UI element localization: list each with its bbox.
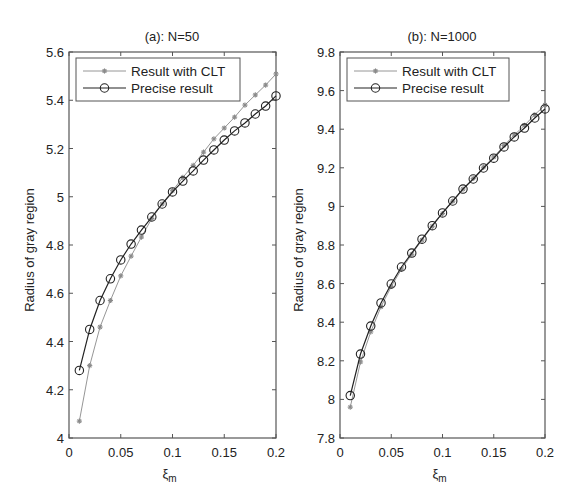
legend-label: Precise result	[402, 81, 484, 96]
y-tick-label: 9.6	[317, 84, 335, 99]
panel-b-chart: (b): N=1000 00.050.10.150.27.888.28.48.6…	[291, 29, 554, 484]
panel-a-title: (a): N=50	[145, 29, 200, 44]
star-marker	[139, 234, 144, 239]
star-marker	[222, 125, 227, 130]
series-clt	[77, 71, 279, 423]
star-marker	[108, 298, 113, 303]
legend-star-icon	[373, 68, 378, 73]
legend-label: Result with CLT	[131, 64, 225, 79]
legend-label: Precise result	[131, 81, 213, 96]
x-tick-label: 0.05	[108, 445, 133, 460]
star-marker	[129, 253, 134, 258]
series-precise	[346, 105, 549, 400]
y-tick-label: 5.6	[46, 45, 64, 60]
x-axis-label: ξm	[432, 466, 446, 484]
panel-a-chart: (a): N=50 00.050.10.150.244.24.44.64.855…	[22, 29, 285, 484]
y-tick-label: 4	[57, 431, 64, 446]
star-marker	[97, 324, 102, 329]
y-tick-label: 4.6	[46, 286, 64, 301]
y-tick-label: 9.8	[317, 45, 335, 60]
legend: Result with CLTPrecise result	[347, 58, 509, 101]
legend-star-icon	[102, 68, 107, 73]
star-marker	[348, 405, 353, 410]
x-tick-label: 0.2	[267, 445, 285, 460]
legend: Result with CLTPrecise result	[76, 58, 240, 101]
y-tick-label: 8.2	[317, 354, 335, 369]
figure: (a): N=50 00.050.10.150.244.24.44.64.855…	[0, 0, 582, 502]
star-marker	[211, 136, 216, 141]
legend-label: Result with CLT	[402, 64, 496, 79]
panel-b-title: (b): N=1000	[407, 29, 476, 44]
y-tick-label: 5.2	[46, 142, 64, 157]
star-marker	[77, 419, 82, 424]
y-tick-label: 8.8	[317, 238, 335, 253]
x-tick-label: 0.1	[433, 445, 451, 460]
y-tick-label: 8	[328, 392, 335, 407]
star-marker	[87, 363, 92, 368]
y-tick-label: 5.4	[46, 93, 64, 108]
x-tick-label: 0.1	[163, 445, 181, 460]
y-tick-label: 4.4	[46, 335, 64, 350]
y-tick-label: 8.6	[317, 277, 335, 292]
x-tick-label: 0	[65, 445, 72, 460]
chart-canvas: (a): N=50 00.050.10.150.244.24.44.64.855…	[0, 0, 582, 502]
y-tick-label: 5	[57, 190, 64, 205]
y-tick-label: 9.4	[317, 122, 335, 137]
x-tick-label: 0	[336, 445, 343, 460]
y-tick-label: 9	[328, 199, 335, 214]
y-axis-label: Radius of gray region	[22, 188, 37, 312]
star-marker	[201, 150, 206, 155]
y-tick-label: 4.8	[46, 238, 64, 253]
star-marker	[273, 71, 278, 76]
y-axis-label: Radius of gray region	[291, 188, 306, 312]
x-tick-label: 0.05	[379, 445, 404, 460]
x-tick-label: 0.15	[481, 445, 506, 460]
axes-frame	[69, 52, 276, 438]
y-tick-label: 7.8	[317, 431, 335, 446]
y-tick-label: 9.2	[317, 161, 335, 176]
x-tick-label: 0.15	[212, 445, 237, 460]
x-axis-label: ξm	[162, 466, 176, 484]
star-marker	[118, 273, 123, 278]
x-tick-label: 0.2	[536, 445, 554, 460]
series-clt	[348, 102, 548, 409]
axes-frame	[340, 52, 545, 438]
series-precise	[75, 92, 280, 375]
y-tick-label: 8.4	[317, 315, 335, 330]
y-tick-label: 4.2	[46, 383, 64, 398]
